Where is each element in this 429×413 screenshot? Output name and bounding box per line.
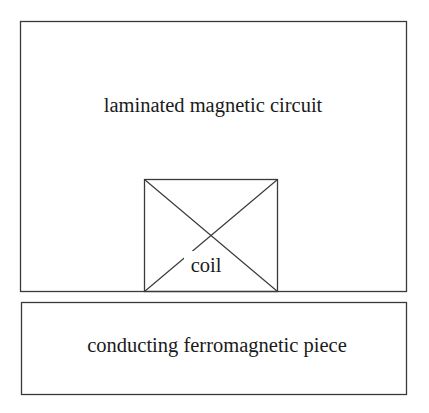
workpiece: conducting ferromagnetic piece — [22, 303, 407, 395]
magnetic-circuit-label: laminated magnetic circuit — [104, 94, 323, 117]
coil-label: coil — [191, 254, 222, 276]
workpiece-label: conducting ferromagnetic piece — [87, 334, 347, 357]
coil: coil — [145, 180, 278, 292]
diagram-canvas: laminated magnetic circuit coil conducti… — [0, 0, 429, 413]
